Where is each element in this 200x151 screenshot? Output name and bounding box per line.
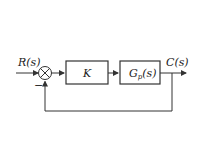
block-diagram: R(s) − K Gp(s) C(s) — [0, 0, 200, 151]
input-label: R(s) — [17, 56, 41, 69]
controller-block: K — [66, 61, 108, 84]
controller-label: K — [82, 67, 92, 80]
plant-label: Gp(s) — [129, 67, 157, 81]
plant-block: Gp(s) — [120, 61, 160, 84]
summing-junction — [39, 67, 52, 80]
feedback-sign: − — [34, 79, 43, 92]
output-label: C(s) — [166, 56, 189, 69]
